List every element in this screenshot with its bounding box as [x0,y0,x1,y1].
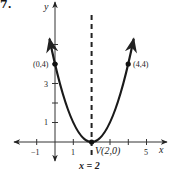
point-4-4 [126,61,131,66]
axis-of-symmetry-label: x = 2 [78,160,100,171]
ytick-3-label: 3 [44,80,48,89]
point-left-label: (0,4) [33,60,49,69]
point-right-label: (4,4) [133,60,149,69]
parabola-graph: y x (0,4) (4,4) 3 1 −1 1 5 V(2,0) x = 2 [0,0,173,173]
y-axis-label: y [43,1,49,12]
xtick-1-label: 1 [71,148,75,157]
xtick-5-label: 5 [144,148,148,157]
ytick-1-label: 1 [44,118,48,127]
vertex-label: V(2,0) [95,145,121,157]
vertex-point [89,139,94,144]
xtick-neg1-label: −1 [31,148,40,157]
x-axis-label: x [158,144,164,155]
point-0-4 [52,61,57,66]
